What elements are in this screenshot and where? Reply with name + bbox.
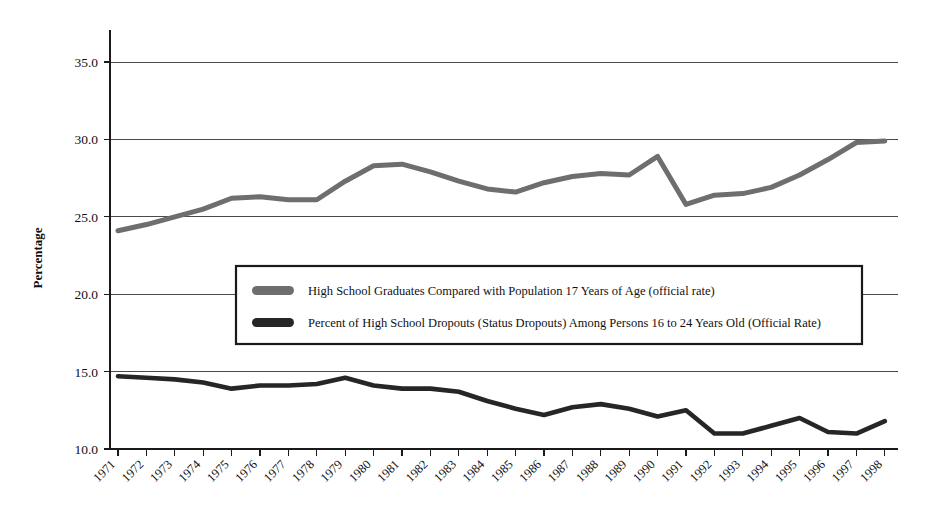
y-axis-tick-label: 25.0: [74, 210, 98, 225]
x-axis-tick-label: 1972: [119, 457, 147, 485]
series-line-2: [118, 376, 885, 433]
x-axis-tick-label: 1980: [346, 457, 374, 485]
y-axis-tick-label: 35.0: [74, 55, 98, 70]
y-axis-tick-label: 30.0: [74, 132, 98, 147]
x-axis-tick-label: 1976: [233, 457, 261, 485]
y-axis-tick-label: 10.0: [74, 442, 98, 457]
x-axis-tick-label: 1998: [857, 457, 885, 485]
x-axis-tick-label: 1971: [91, 457, 119, 485]
x-axis-tick-label: 1977: [261, 457, 289, 485]
line-chart: 35.030.025.020.015.010.0 197119721973197…: [0, 0, 933, 514]
x-axis-tick-label: 1979: [318, 457, 346, 485]
x-axis-tick-label: 1991: [659, 457, 687, 485]
chart-figure: 35.030.025.020.015.010.0 197119721973197…: [0, 0, 933, 514]
x-axis-tick-label: 1995: [772, 457, 800, 485]
x-axis-tick-label: 1975: [204, 457, 232, 485]
x-axis-tick-label: 1996: [801, 457, 829, 485]
legend-label-2: Percent of High School Dropouts (Status …: [308, 316, 821, 330]
legend-swatch-2: [252, 318, 294, 327]
legend-swatch-1: [252, 286, 294, 295]
x-axis-tick-label: 1994: [744, 457, 772, 485]
y-axis-ticks-group: [104, 62, 110, 449]
y-axis-title-text: Percentage: [30, 227, 45, 288]
x-axis-tick-label: 1997: [829, 457, 857, 485]
x-axis-tick-label: 1974: [176, 457, 204, 485]
x-axis-tick-label: 1988: [573, 457, 601, 485]
gridlines-group: [110, 62, 898, 449]
x-axis-tick-label: 1982: [403, 457, 431, 485]
x-axis-tick-label: 1987: [545, 457, 573, 485]
x-axis-ticks-group: [118, 449, 885, 456]
x-axis-tick-label: 1973: [147, 457, 175, 485]
x-axis-tick-label: 1984: [460, 457, 488, 485]
x-axis-tick-label: 1983: [431, 457, 459, 485]
x-axis-tick-label: 1993: [715, 457, 743, 485]
x-axis-tick-label: 1992: [687, 457, 715, 485]
x-axis-tick-label: 1989: [602, 457, 630, 485]
x-axis-tick-label: 1986: [517, 457, 545, 485]
legend-label-1: High School Graduates Compared with Popu…: [308, 284, 715, 298]
x-axis-tick-label: 1985: [488, 457, 516, 485]
y-axis-tick-label: 20.0: [74, 287, 98, 302]
legend-box: [236, 266, 862, 344]
x-axis-tick-label: 1978: [289, 457, 317, 485]
y-axis-tick-labels: 35.030.025.020.015.010.0: [74, 55, 98, 457]
y-axis-title: Percentage: [30, 227, 45, 288]
x-axis-tick-label: 1981: [375, 457, 403, 485]
x-axis-tick-labels: 1971197219731974197519761977197819791980…: [91, 457, 885, 485]
x-axis-tick-label: 1990: [630, 457, 658, 485]
y-axis-tick-label: 15.0: [74, 365, 98, 380]
chart-legend: High School Graduates Compared with Popu…: [236, 266, 862, 344]
